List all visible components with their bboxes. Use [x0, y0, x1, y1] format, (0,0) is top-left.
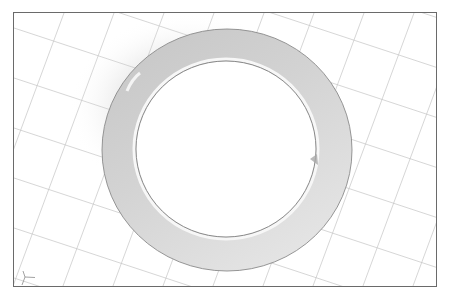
scene-canvas[interactable]: [14, 13, 437, 287]
axis-x-icon: [25, 277, 35, 278]
3d-viewport[interactable]: [13, 12, 437, 287]
ring-model[interactable]: [14, 13, 437, 287]
ring-inner-edge: [136, 61, 316, 237]
